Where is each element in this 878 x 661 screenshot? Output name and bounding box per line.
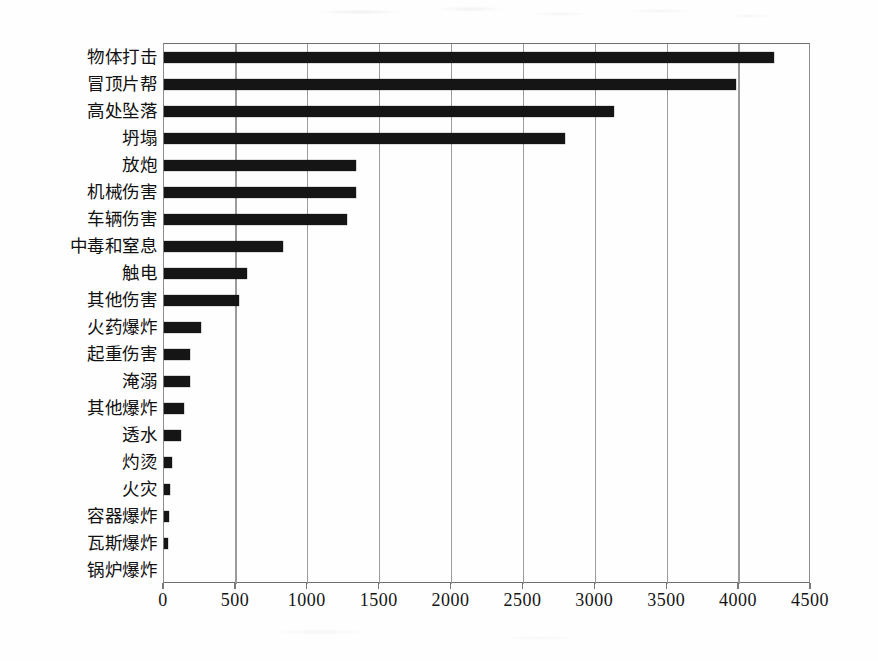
bar	[164, 79, 736, 90]
bar	[164, 430, 181, 441]
gridline-4000	[738, 44, 739, 584]
gridline-3000	[595, 44, 596, 584]
bar	[164, 241, 283, 252]
gridline-1500	[379, 44, 380, 584]
x-tick-label: 1500	[360, 589, 398, 611]
category-label: 容器爆炸	[0, 507, 157, 525]
chart-page: 物体打击冒顶片帮高处坠落坍塌放炮机械伤害车辆伤害中毒和窒息触电其他伤害火药爆炸起…	[0, 0, 878, 661]
x-tick-label: 4500	[791, 589, 829, 611]
bar	[164, 160, 356, 171]
category-label: 锅炉爆炸	[0, 561, 157, 579]
bar	[164, 457, 172, 468]
category-axis-labels: 物体打击冒顶片帮高处坠落坍塌放炮机械伤害车辆伤害中毒和窒息触电其他伤害火药爆炸起…	[0, 43, 157, 583]
bar	[164, 322, 201, 333]
x-tick-label: 4000	[719, 589, 757, 611]
scan-noise-bottom	[0, 618, 878, 661]
category-label: 起重伤害	[0, 345, 157, 363]
category-label: 中毒和窒息	[0, 237, 157, 255]
bar	[164, 376, 190, 387]
bar	[164, 106, 614, 117]
gridline-1000	[307, 44, 308, 584]
x-tick-label: 2000	[432, 589, 470, 611]
category-label: 触电	[0, 264, 157, 282]
scan-noise-top	[0, 0, 878, 36]
category-label: 放炮	[0, 156, 157, 174]
x-tick-label: 0	[158, 589, 168, 611]
category-label: 火药爆炸	[0, 318, 157, 336]
bar	[164, 403, 184, 414]
gridline-2500	[523, 44, 524, 584]
bar	[164, 484, 170, 495]
category-label: 淹溺	[0, 372, 157, 390]
bar	[164, 52, 774, 63]
category-label: 物体打击	[0, 48, 157, 66]
bar	[164, 133, 565, 144]
x-tick-label: 2500	[503, 589, 541, 611]
category-label: 火灾	[0, 480, 157, 498]
x-tick-label: 1000	[288, 589, 326, 611]
x-tick-label: 500	[221, 589, 250, 611]
category-label: 其他伤害	[0, 291, 157, 309]
plot-area	[163, 43, 810, 583]
category-label: 机械伤害	[0, 183, 157, 201]
category-label: 透水	[0, 426, 157, 444]
gridline-500	[235, 44, 236, 584]
category-label: 冒顶片帮	[0, 75, 157, 93]
bar	[164, 349, 190, 360]
bar	[164, 214, 347, 225]
gridline-2000	[451, 44, 452, 584]
gridline-3500	[667, 44, 668, 584]
category-label: 车辆伤害	[0, 210, 157, 228]
category-label: 瓦斯爆炸	[0, 534, 157, 552]
bar	[164, 295, 239, 306]
bar	[164, 187, 356, 198]
x-tick-label: 3000	[575, 589, 613, 611]
bar	[164, 538, 168, 549]
bar	[164, 511, 169, 522]
x-tick-label: 3500	[647, 589, 685, 611]
category-label: 高处坠落	[0, 102, 157, 120]
x-axis-tick-labels: 050010001500200025003000350040004500	[0, 589, 878, 617]
bar	[164, 268, 247, 279]
category-label: 灼烫	[0, 453, 157, 471]
category-label: 坍塌	[0, 129, 157, 147]
category-label: 其他爆炸	[0, 399, 157, 417]
